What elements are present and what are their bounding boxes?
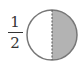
half-shaded-circle <box>0 0 82 66</box>
shaded-half <box>52 10 77 60</box>
